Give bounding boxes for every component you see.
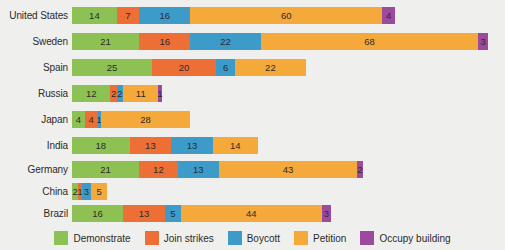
segment-value: 28 [140,114,151,125]
legend-swatch-occupy-building-icon [360,231,374,245]
chart-row: Spain2520622 [0,58,505,76]
bar-segment-join-strikes: 16 [139,33,190,50]
chart-row: China2135 [0,182,505,200]
bar-segment-demonstrate: 21 [72,161,139,178]
bar-segment-demonstrate: 12 [72,85,110,102]
bar-segment-occupy-building: 3 [322,205,332,222]
segment-value: 13 [139,208,150,219]
bar-segment-boycott: 22 [190,33,260,50]
legend-label: Petition [313,233,346,244]
bar-segment-join-strikes: 13 [123,205,165,222]
bar-segment-boycott: 6 [216,59,235,76]
bar-segment-join-strikes: 7 [117,7,139,24]
bar-segment-boycott: 16 [139,7,190,24]
bar-segment-occupy-building: 1 [158,85,161,102]
bar-segment-join-strikes: 20 [152,59,216,76]
segment-value: 13 [145,140,156,151]
segment-value: 16 [159,36,170,47]
segment-value: 21 [100,164,111,175]
segment-value: 3 [481,36,486,47]
legend-label: Demonstrate [73,233,130,244]
bar-segment-demonstrate: 25 [72,59,152,76]
segment-value: 12 [153,164,164,175]
segment-value: 68 [364,36,375,47]
category-label-brazil: Brazil [0,208,72,219]
segment-value: 3 [324,208,329,219]
segment-value: 12 [86,88,97,99]
segment-value: 5 [97,186,102,197]
segment-value: 14 [89,10,100,21]
bar-segment-occupy-building: 2 [357,161,363,178]
category-label-china: China [0,186,72,197]
stacked-bar: 16135443 [72,205,331,222]
bar-segment-demonstrate: 14 [72,7,117,24]
category-label-india: India [0,140,72,151]
segment-value: 22 [265,62,276,73]
segment-value: 43 [283,164,294,175]
legend-item-demonstrate[interactable]: Demonstrate [54,231,130,245]
category-label-spain: Spain [0,62,72,73]
segment-value: 60 [281,10,292,21]
legend-swatch-boycott-icon [228,231,242,245]
legend-label: Join strikes [164,233,214,244]
segment-value: 14 [230,140,241,151]
segment-value: 6 [223,62,228,73]
stacked-bar: 18131314 [72,137,258,154]
segment-value: 22 [220,36,231,47]
bar-segment-join-strikes: 12 [139,161,177,178]
bar-segment-boycott: 5 [165,205,181,222]
legend-item-occupy-building[interactable]: Occupy building [360,231,450,245]
bar-segment-petition: 68 [261,33,479,50]
chart-legend: DemonstrateJoin strikesBoycottPetitionOc… [0,228,505,248]
bar-segment-petition: 60 [190,7,382,24]
chart-row: Sweden211622683 [0,32,505,50]
bar-segment-demonstrate: 16 [72,205,123,222]
bar-segment-demonstrate: 18 [72,137,130,154]
category-label-russia: Russia [0,88,72,99]
segment-value: 25 [107,62,118,73]
bar-segment-petition: 44 [181,205,322,222]
segment-value: 1 [157,88,162,99]
bar-segment-join-strikes: 13 [130,137,172,154]
segment-value: 11 [136,88,146,99]
bar-segment-demonstrate: 4 [72,111,85,128]
segment-value: 16 [92,208,103,219]
category-label-sweden: Sweden [0,36,72,47]
segment-value: 7 [125,10,130,21]
bar-segment-boycott: 13 [171,137,213,154]
legend-swatch-join-strikes-icon [145,231,159,245]
legend-label: Boycott [247,233,280,244]
segment-value: 13 [193,164,204,175]
segment-value: 2 [357,164,362,175]
legend-swatch-petition-icon [294,231,308,245]
segment-value: 16 [159,10,170,21]
bar-segment-boycott: 13 [178,161,220,178]
legend-label: Occupy building [379,233,450,244]
bar-segment-demonstrate: 21 [72,33,139,50]
bar-segment-petition: 11 [123,85,158,102]
bar-segment-boycott: 3 [82,183,92,200]
segment-value: 20 [179,62,190,73]
segment-value: 2 [111,88,116,99]
chart-row: Germany211213432 [0,160,505,178]
chart-row: United States14716604 [0,6,505,24]
bar-segment-petition: 14 [213,137,258,154]
bar-segment-petition: 5 [91,183,107,200]
chart-row: Russia1222111 [0,84,505,102]
category-label-united-states: United States [0,10,72,21]
segment-value: 44 [246,208,257,219]
chart-row: Brazil16135443 [0,204,505,222]
legend-item-join-strikes[interactable]: Join strikes [145,231,214,245]
legend-item-boycott[interactable]: Boycott [228,231,280,245]
segment-value: 4 [89,114,94,125]
category-label-germany: Germany [0,164,72,175]
chart-row: India18131314 [0,136,505,154]
bar-segment-petition: 28 [101,111,191,128]
stacked-bar: 211622683 [72,33,488,50]
segment-value: 3 [84,186,89,197]
segment-value: 5 [170,208,175,219]
segment-value: 13 [187,140,198,151]
segment-value: 21 [100,36,111,47]
legend-item-petition[interactable]: Petition [294,231,346,245]
bar-segment-petition: 22 [235,59,305,76]
